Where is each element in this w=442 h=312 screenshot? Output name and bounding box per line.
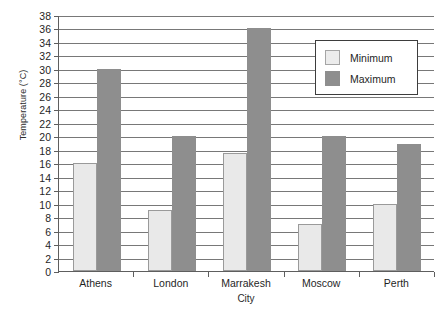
y-axis-tick-label: 2 <box>11 253 51 264</box>
bar-marrakesh-minimum <box>223 153 247 271</box>
y-axis-tick-label: 26 <box>11 92 51 103</box>
y-axis-tick-label: 32 <box>11 51 51 62</box>
y-axis-tick-label: 22 <box>11 119 51 130</box>
bar-moscow-maximum <box>322 136 346 271</box>
y-axis-tick-label: 16 <box>11 159 51 170</box>
y-axis-tick-label: 30 <box>11 65 51 76</box>
y-axis-tick-label: 6 <box>11 226 51 237</box>
legend-swatch-maximum-icon <box>325 71 340 86</box>
legend-label-maximum: Maximum <box>350 73 396 85</box>
bar-perth-maximum <box>397 144 421 271</box>
x-axis-labels: AthensLondonMarrakeshMoscowPerth <box>58 277 434 293</box>
x-axis-label-moscow: Moscow <box>302 277 341 289</box>
y-axis-tick-label: 24 <box>11 105 51 116</box>
x-axis-label-marrakesh: Marrakesh <box>221 277 271 289</box>
bar-athens-minimum <box>73 163 97 271</box>
legend-label-minimum: Minimum <box>350 52 393 64</box>
legend-swatch-minimum-icon <box>325 50 340 65</box>
x-axis-label-athens: Athens <box>79 277 112 289</box>
bar-perth-minimum <box>373 204 397 271</box>
x-axis-title: City <box>58 293 434 304</box>
y-axis-tick-label: 28 <box>11 78 51 89</box>
y-axis-tick-label: 20 <box>11 132 51 143</box>
y-axis-tick-label: 8 <box>11 213 51 224</box>
y-axis-tick-label: 12 <box>11 186 51 197</box>
y-axis-tick-label: 36 <box>11 24 51 35</box>
y-axis-tick-label: 0 <box>11 267 51 278</box>
legend-item-minimum: Minimum <box>325 47 417 68</box>
x-axis-label-perth: Perth <box>384 277 409 289</box>
bar-athens-maximum <box>97 69 121 271</box>
x-axis-label-london: London <box>153 277 188 289</box>
bar-chart: Temperature (°C) 02468101214161820222426… <box>0 0 442 312</box>
y-axis-tick-label: 10 <box>11 199 51 210</box>
y-axis-tick-label: 14 <box>11 172 51 183</box>
x-axis-tick <box>434 272 435 277</box>
bar-london-minimum <box>148 210 172 271</box>
bar-marrakesh-maximum <box>247 28 271 271</box>
y-axis-tick-label: 4 <box>11 240 51 251</box>
bar-london-maximum <box>172 136 196 271</box>
bar-moscow-minimum <box>298 224 322 271</box>
y-axis-tick-label: 38 <box>11 11 51 22</box>
chart-legend: Minimum Maximum <box>315 40 418 95</box>
legend-item-maximum: Maximum <box>325 68 417 89</box>
y-axis-tick-label: 18 <box>11 145 51 156</box>
y-axis-tick-label: 34 <box>11 38 51 49</box>
